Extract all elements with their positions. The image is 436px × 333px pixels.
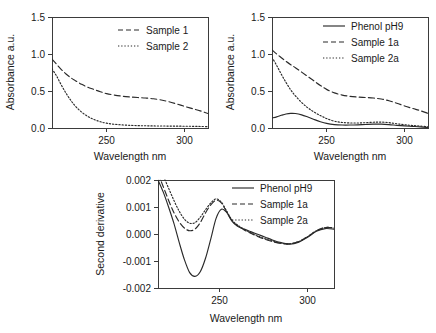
y-axis-tick-label: 0.001 <box>126 202 151 213</box>
chart-legend: Phenol pH9Sample 1aSample 2a <box>232 183 313 226</box>
chart-panel-phenol-absorbance: 0.00.51.01.5250300Wavelength nmAbsorbanc… <box>215 2 436 167</box>
x-axis-tick-label: 300 <box>176 135 193 146</box>
y-axis-tick-label: 0.0 <box>251 123 265 134</box>
legend-label: Sample 1a <box>351 37 399 48</box>
x-axis-tick-label: 250 <box>98 135 115 146</box>
legend-label: Sample 2a <box>260 215 308 226</box>
legend-label: Sample 1 <box>146 25 189 36</box>
y-axis-tick-label: 1.5 <box>251 12 265 23</box>
y-axis-title: Absorbance a.u. <box>4 34 16 110</box>
x-axis-title: Wavelength nm <box>314 150 387 162</box>
x-axis-tick-label: 300 <box>299 295 316 306</box>
x-axis-tick-label: 300 <box>396 135 413 146</box>
y-axis-tick-label: 0.5 <box>251 86 265 97</box>
y-axis-tick-label: -0.002 <box>123 283 152 294</box>
y-axis-tick-label: -0.001 <box>123 256 152 267</box>
figure-uv-absorbance-spectra: 0.00.51.01.5250300Wavelength nmAbsorbanc… <box>0 0 436 333</box>
y-axis-tick-label: 1.0 <box>251 49 265 60</box>
chart-panel-second-derivative: -0.002-0.0010.0000.0010.002250300Wavelen… <box>92 166 382 333</box>
y-axis-tick-label: 1.5 <box>31 12 45 23</box>
data-curve <box>272 50 428 113</box>
y-axis-tick-label: 0.002 <box>126 175 151 186</box>
plot-frame <box>158 180 334 288</box>
y-axis-tick-label: 0.000 <box>126 229 151 240</box>
y-axis-title: Absorbance a.u. <box>224 34 236 110</box>
data-curve <box>272 113 428 127</box>
x-axis-title: Wavelength nm <box>94 150 167 162</box>
legend-label: Phenol pH9 <box>351 21 404 32</box>
chart-legend: Sample 1Sample 2 <box>118 25 189 52</box>
data-curve <box>52 69 208 127</box>
legend-label: Sample 2 <box>146 41 189 52</box>
x-axis-tick-label: 250 <box>318 135 335 146</box>
y-axis-tick-label: 1.0 <box>31 49 45 60</box>
legend-label: Phenol pH9 <box>260 183 313 194</box>
y-axis-tick-label: 0.5 <box>31 86 45 97</box>
chart-panel-sample-absorbance: 0.00.51.01.5250300Wavelength nmAbsorbanc… <box>0 2 218 167</box>
chart-svg-panel-c: -0.002-0.0010.0000.0010.002250300Wavelen… <box>92 166 382 333</box>
curves-group <box>272 50 428 127</box>
curves-group <box>52 59 208 126</box>
x-axis-title: Wavelength nm <box>210 312 283 324</box>
chart-legend: Phenol pH9Sample 1aSample 2a <box>323 21 404 64</box>
legend-label: Sample 2a <box>351 53 399 64</box>
legend-label: Sample 1a <box>260 199 308 210</box>
x-axis-tick-label: 250 <box>211 295 228 306</box>
y-axis-title: Second derivative <box>94 192 106 276</box>
data-curve <box>52 59 208 113</box>
y-axis-tick-label: 0.0 <box>31 123 45 134</box>
plot-frame <box>272 17 428 128</box>
chart-svg-panel-a: 0.00.51.01.5250300Wavelength nmAbsorbanc… <box>0 2 218 167</box>
chart-svg-panel-b: 0.00.51.01.5250300Wavelength nmAbsorbanc… <box>215 2 436 167</box>
